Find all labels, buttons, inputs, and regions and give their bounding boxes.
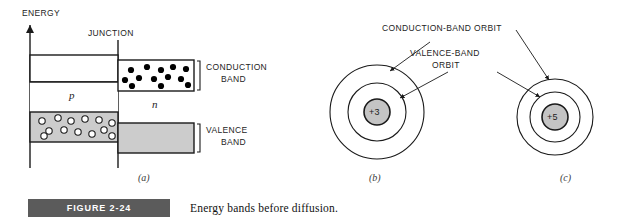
hole [41,133,47,139]
energy-axis-label: ENERGY [22,8,60,19]
panel-label-b: (b) [369,172,381,183]
hole [55,115,61,121]
free-electron [129,83,135,89]
valence-band-label-line2: BAND [221,137,246,148]
hole [96,117,102,123]
valence-band-label-line1: VALENCE [206,125,248,136]
free-electron [178,76,184,82]
free-electron [185,82,191,88]
free-electron [151,76,157,82]
valence-band-orbit-annotation-line2: ORBIT [432,60,460,71]
hole [68,118,74,124]
panel-c-atom [497,30,593,155]
panel-label-a: (a) [138,172,150,183]
free-electron [165,74,171,80]
free-electron [136,75,142,81]
n-region-label: n [152,99,158,110]
free-electron [170,64,176,70]
conduction-orbit-leader [516,30,549,80]
hole [101,127,107,133]
panel-b-nucleus-charge: +3 [369,107,380,118]
free-electron [128,67,134,73]
hole [75,129,81,135]
free-electron [122,77,128,83]
hole [109,120,115,126]
free-electron [158,67,164,73]
hole [39,118,45,124]
hole [89,131,95,137]
hole [61,127,67,133]
figure-caption-row: FIGURE 2-24 Energy bands before diffusio… [28,199,338,217]
free-electron [183,66,189,72]
panel-a-energy-band-diagram [30,25,200,168]
figure-number-tag: FIGURE 2-24 [28,199,170,217]
panel-b-atom [330,42,448,159]
panel-c-nucleus-charge: +5 [547,112,558,123]
figure-caption-text: Energy bands before diffusion. [190,202,338,214]
junction-label: JUNCTION [88,28,134,39]
conduction-band-label-line2: BAND [221,74,246,85]
valence-band-orbit-annotation-line1: VALENCE-BAND [410,48,480,59]
valence-orbit-leader [497,72,540,97]
hole [82,116,88,122]
n-valence-band [118,123,194,153]
hole [109,133,115,139]
conduction-band-orbit-annotation: CONDUCTION-BAND ORBIT [382,23,502,34]
panel-label-c: (c) [560,172,571,183]
valence-band-bracket [197,124,200,152]
free-electron [144,64,150,70]
hole [46,128,52,134]
free-electron [158,83,164,89]
conduction-band-bracket [197,61,200,90]
figure-2-24: ENERGY JUNCTION p n CONDUCTION BAND VALE… [0,0,634,222]
conduction-band-label-line1: CONDUCTION [206,62,267,73]
p-region-label: p [69,90,75,101]
p-conduction-band [30,55,118,82]
